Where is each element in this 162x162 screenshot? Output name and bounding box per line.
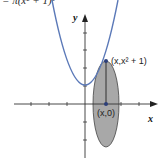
x-axis-arrow-icon [150,101,158,107]
x-axis-label: x [147,113,153,124]
curve-point-label: (x,x² + 1) [111,56,147,66]
y-axis-arrow-icon [82,14,88,22]
y-axis-label: y [72,12,78,23]
curve-point [104,59,108,63]
axis-point-label: (x,0) [97,108,115,118]
revolution-diagram: y x (x,x² + 1) (x,0) [0,0,162,162]
axis-point [104,102,108,106]
